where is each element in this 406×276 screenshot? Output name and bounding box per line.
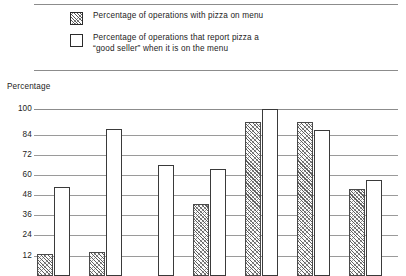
bar-on-menu [349,189,365,276]
bar-on-menu [37,254,53,276]
y-tick-label-84: 84 [10,130,32,139]
bar-group [138,0,190,265]
bar-on-menu [297,122,313,276]
bar-on-menu [89,252,105,275]
bar-group [346,0,398,265]
bar-good-seller [314,130,330,275]
bar-good-seller [158,165,174,275]
y-tick-label-12: 12 [10,251,32,260]
bar-good-seller [366,180,382,275]
y-tick-label-100: 100 [10,104,32,113]
bar-group [242,0,294,265]
y-tick-label-60: 60 [10,170,32,179]
bar-good-seller [106,129,122,276]
bar-on-menu [245,122,261,276]
y-tick-label-36: 36 [10,210,32,219]
bar-good-seller [54,187,70,276]
bar-on-menu [193,204,209,276]
y-tick-label-48: 48 [10,190,32,199]
bar-group [294,0,346,265]
bars-group [34,0,398,265]
bar-group [190,0,242,265]
y-tick-label-24: 24 [10,230,32,239]
y-tick-label-72: 72 [10,150,32,159]
bar-good-seller [262,109,278,276]
bar-group [34,0,86,265]
bar-good-seller [210,169,226,276]
bar-group [86,0,138,265]
